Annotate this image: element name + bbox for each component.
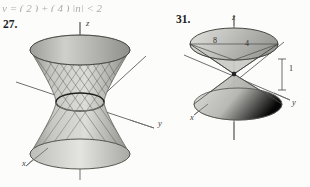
semi-axis-label-4: 4 [245, 39, 249, 48]
semi-axis-label-8: 8 [213, 36, 217, 45]
y-axis-label-31: y [292, 97, 296, 107]
cone-apex-dot [232, 72, 236, 76]
upper-nappe [190, 28, 278, 74]
textbook-page-fragment: y = ( 2 ) + ( 4 ) |n| < 2 27. [0, 0, 310, 187]
z-axis-label-27: z [86, 18, 89, 28]
height-bracket [278, 59, 286, 90]
bottom-rim-ellipse [30, 139, 130, 169]
lower-nappe [194, 74, 282, 120]
hyperboloid-body [30, 50, 130, 154]
x-axis-label-31: x [190, 112, 194, 122]
x-axis-label-27: x [22, 158, 26, 168]
cut-off-previous-line: y = ( 2 ) + ( 4 ) |n| < 2 [2, 0, 308, 12]
figure-hyperboloid-of-one-sheet [8, 20, 173, 185]
y-axis-tip [130, 120, 154, 128]
height-label-1: 1 [289, 64, 293, 73]
z-axis-label-31: z [232, 12, 235, 22]
figure-double-cone [178, 12, 308, 147]
hyperboloid-surface [14, 35, 146, 169]
y-axis-label-27: y [158, 118, 162, 128]
cut-off-equation-fragment: y = ( 2 ) + ( 4 ) |n| < 2 [2, 2, 102, 12]
